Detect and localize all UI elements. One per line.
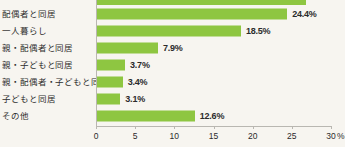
bar-row: 親・子どもと同居3.7% [0, 57, 345, 73]
bar-value-label: 24.4% [292, 9, 317, 19]
x-tick-mark [214, 126, 215, 129]
bar [96, 60, 125, 71]
x-tick-mark [292, 126, 293, 129]
bar-value-label: 3.1% [125, 94, 145, 104]
x-axis-unit-label: % [337, 131, 345, 141]
bar-chart: 配偶者と同居24.4%一人暮らし18.5%親・配偶者と同居7.9%親・子どもと同… [0, 0, 345, 147]
bar-row: 親・配偶者・子どもと同居3.4% [0, 74, 345, 90]
bar [96, 26, 241, 37]
bar-row: 一人暮らし18.5% [0, 23, 345, 39]
x-tick-mark [135, 126, 136, 129]
bar-row: 子どもと同居3.1% [0, 91, 345, 107]
x-tick-label: 25 [287, 131, 296, 141]
plot-area: 配偶者と同居24.4%一人暮らし18.5%親・配偶者と同居7.9%親・子どもと同… [0, 0, 345, 147]
x-tick-label: 30 [326, 131, 335, 141]
y-axis-line [96, 0, 97, 126]
bar-value-label: 3.7% [130, 60, 150, 70]
bar [96, 77, 123, 88]
x-tick-label: 5 [133, 131, 138, 141]
category-label: 子どもと同居 [2, 94, 55, 104]
category-label: 親・子どもと同居 [2, 60, 73, 70]
bar-row: 親・配偶者と同居7.9% [0, 40, 345, 56]
x-tick-mark [96, 126, 97, 129]
x-tick-mark [331, 126, 332, 129]
x-tick-label: 20 [248, 131, 257, 141]
bar [96, 111, 195, 122]
category-label: その他 [2, 111, 29, 121]
x-tick-label: 0 [94, 131, 99, 141]
bar [96, 43, 158, 54]
bar-row: その他12.6% [0, 108, 345, 124]
category-label: 親・配偶者と同居 [2, 43, 73, 53]
category-label: 配偶者と同居 [2, 9, 55, 19]
bar-value-label: 18.5% [246, 26, 271, 36]
bar [96, 94, 120, 105]
bar-value-label: 3.4% [128, 77, 148, 87]
bar-row: 配偶者と同居24.4% [0, 6, 345, 22]
x-tick-label: 10 [170, 131, 179, 141]
clipped-top-bar [96, 0, 306, 5]
bar [96, 9, 287, 20]
x-tick-mark [174, 126, 175, 129]
bar-value-label: 7.9% [163, 43, 183, 53]
category-label: 親・配偶者・子どもと同居 [2, 77, 109, 87]
x-tick-label: 15 [209, 131, 218, 141]
category-label: 一人暮らし [2, 26, 47, 36]
bar-value-label: 12.6% [200, 111, 225, 121]
x-tick-mark [253, 126, 254, 129]
